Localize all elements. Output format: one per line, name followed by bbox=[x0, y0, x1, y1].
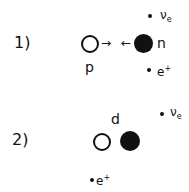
neutrino-dot-icon-2 bbox=[160, 112, 164, 116]
panel-2-number: 2) bbox=[12, 133, 28, 147]
panel-1-number: 1) bbox=[14, 36, 30, 50]
deuteron-proton-circle bbox=[93, 133, 111, 151]
arrow-right-icon: → bbox=[101, 37, 111, 49]
positron-label-1: e+ bbox=[157, 63, 171, 78]
deuteron-neutron-circle bbox=[120, 131, 140, 151]
positron-dot-icon bbox=[147, 68, 151, 72]
positron-label-2: e+ bbox=[96, 172, 110, 187]
proton-circle bbox=[81, 35, 99, 53]
positron-dot-icon-2 bbox=[90, 178, 94, 182]
deuteron-label: d bbox=[111, 112, 120, 126]
arrow-left-icon: ← bbox=[121, 37, 131, 49]
neutron-label: n bbox=[157, 36, 166, 50]
neutrino-dot-icon bbox=[148, 14, 152, 18]
neutron-circle bbox=[134, 34, 153, 53]
neutrino-label-2: νe bbox=[170, 106, 182, 123]
proton-label: p bbox=[85, 60, 94, 74]
neutrino-label-1: νe bbox=[160, 9, 172, 26]
